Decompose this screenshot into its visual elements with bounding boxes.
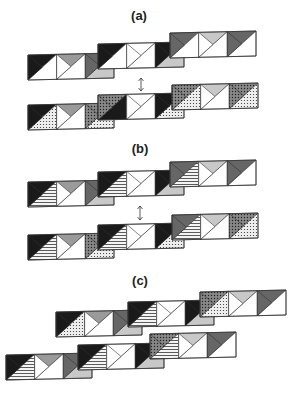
panel-label-c: (c) (132, 273, 148, 288)
octahedra-chain-segment (172, 213, 258, 240)
panel-a (28, 31, 258, 130)
octahedra-chain-segment (170, 31, 256, 58)
panel-label-a: (a) (131, 8, 147, 23)
panel-c (6, 290, 286, 380)
panel-label-b: (b) (132, 141, 149, 156)
double-arrow-icon (139, 78, 144, 91)
octahedra-chain-segment (200, 290, 286, 317)
octahedra-chain-segment (98, 223, 184, 250)
octahedra-chain-segment (170, 160, 256, 187)
octahedra-chain-segment (98, 93, 184, 120)
octahedra-chain-segment (172, 83, 258, 110)
panel-b (28, 160, 258, 260)
polyhedra-diagram (0, 0, 298, 399)
diagram-root (6, 31, 286, 380)
octahedra-chain-segment (150, 332, 236, 359)
double-arrow-icon (138, 206, 143, 220)
